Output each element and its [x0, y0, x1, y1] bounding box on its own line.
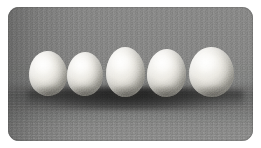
photograph [8, 7, 253, 141]
egg-2 [67, 52, 104, 97]
image-canvas [0, 0, 261, 148]
